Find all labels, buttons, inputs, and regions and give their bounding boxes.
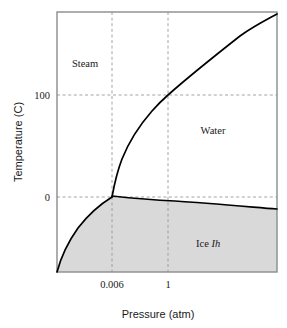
x-axis-title: Pressure (atm) bbox=[122, 308, 195, 320]
y-tick-label-100: 100 bbox=[34, 90, 50, 101]
y-tick-label-0: 0 bbox=[45, 192, 50, 203]
region-label-steam: Steam bbox=[72, 58, 98, 69]
x-tick-label-1: 1 bbox=[165, 279, 170, 290]
x-tick-label-0.006: 0.006 bbox=[100, 279, 124, 290]
region-label-ice-prefix: Ice bbox=[196, 238, 211, 249]
region-label-ice: Ice Ih bbox=[196, 238, 220, 249]
region-label-water: Water bbox=[201, 125, 226, 136]
region-label-ice-phase: Ih bbox=[210, 238, 220, 249]
phase-diagram-svg: 100 0 0.006 1 Pressure (atm) Temperature… bbox=[0, 0, 287, 328]
y-axis-title: Temperature (C) bbox=[12, 102, 24, 182]
phase-diagram-figure: 100 0 0.006 1 Pressure (atm) Temperature… bbox=[0, 0, 287, 328]
